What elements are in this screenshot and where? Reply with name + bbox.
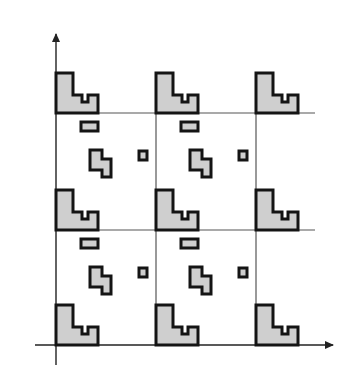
large-l-shape bbox=[156, 73, 198, 113]
axes bbox=[35, 34, 333, 365]
tiny-square-shape bbox=[139, 268, 147, 277]
lattice-shapes bbox=[56, 73, 298, 345]
large-l-shape bbox=[56, 190, 98, 230]
small-bar-shape bbox=[81, 122, 98, 131]
large-l-shape bbox=[56, 305, 98, 345]
tetromino-shape bbox=[90, 150, 111, 177]
large-l-shape bbox=[156, 190, 198, 230]
large-l-shape bbox=[156, 305, 198, 345]
tiny-square-shape bbox=[139, 151, 147, 160]
large-l-shape bbox=[256, 305, 298, 345]
small-bar-shape bbox=[81, 239, 98, 248]
large-l-shape bbox=[256, 73, 298, 113]
lattice-diagram bbox=[0, 0, 361, 382]
small-bar-shape bbox=[181, 239, 198, 248]
large-l-shape bbox=[256, 190, 298, 230]
tetromino-shape bbox=[190, 150, 211, 177]
tiny-square-shape bbox=[239, 268, 247, 277]
small-bar-shape bbox=[181, 122, 198, 131]
tetromino-shape bbox=[190, 267, 211, 294]
tetromino-shape bbox=[90, 267, 111, 294]
large-l-shape bbox=[56, 73, 98, 113]
tiny-square-shape bbox=[239, 151, 247, 160]
